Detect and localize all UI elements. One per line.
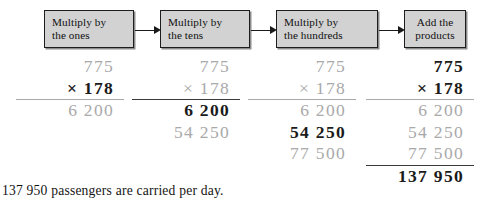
calc-row: 77 500 [248,143,356,165]
calc-value-dim: 775 [200,56,230,76]
flowchart-row: Multiply bythe ones Multiply bythe tens … [0,0,477,56]
calc-row: 77 500 [366,143,474,165]
flow-box-multiply-by-ones-line2: the ones [52,29,127,42]
calc-value-dim: 775 [316,56,346,76]
calc-value-active: 137 950 [398,166,464,186]
arrow-head [398,26,405,34]
arrow-right-icon-3 [379,26,405,35]
calc-row: 6 200 [132,99,240,122]
computation-step-2: 775× 1786 20054 250 [132,56,240,143]
calc-value-dim: 775 [84,56,114,76]
calc-row: 6 200 [248,99,356,122]
arrow-shaft [379,30,399,31]
calc-value-active: × 178 [417,78,464,98]
computation-step-3: 775× 1786 20054 25077 500 [248,56,356,165]
calc-value-dim: 6 200 [300,100,346,120]
flow-box-add-the-products-line1: Add the [410,16,460,29]
calc-row: 6 200 [366,99,474,122]
calc-value-dim: 54 250 [174,122,230,142]
arrow-head [270,26,277,34]
caption-text: 137 950 passengers are carried per day. [2,183,224,199]
calc-value-dim: × 178 [299,78,346,98]
calc-row: 137 950 [366,165,474,188]
computation-step-4: 775× 1786 20054 25077 500137 950 [366,56,474,187]
calc-value-dim: 6 200 [68,100,114,120]
arrow-shaft [135,30,155,31]
arrow-right-icon-2 [251,26,277,35]
calc-row: × 178 [248,78,356,100]
flow-box-multiply-by-ones: Multiply bythe ones [44,10,134,48]
calc-row: 6 200 [16,99,124,122]
calc-row: × 178 [366,78,474,100]
calc-row: 775 [16,56,124,78]
flow-box-multiply-by-tens-line1: Multiply by [168,16,243,29]
flow-box-multiply-by-tens-line2: the tens [168,29,243,42]
flow-box-multiply-by-ones-line1: Multiply by [52,16,127,29]
calc-row: × 178 [132,78,240,100]
calc-value-active: 775 [434,56,464,76]
calc-value-active: 54 250 [290,122,346,142]
calc-value-dim: 77 500 [290,143,346,163]
flow-box-add-the-products: Add theproducts [404,10,466,48]
calc-value-dim: 77 500 [408,143,464,163]
computation-step-1: 775× 1786 200 [16,56,124,122]
flow-box-multiply-by-hundreds-line1: Multiply by [284,16,371,29]
computation-columns: 775× 1786 200 775× 1786 20054 250 775× 1… [0,56,477,180]
calc-row: 54 250 [248,122,356,144]
flow-box-add-the-products-line2: products [410,29,460,42]
calc-row: 54 250 [366,122,474,144]
arrow-shaft [251,30,271,31]
calc-value-active: 6 200 [184,100,230,120]
calc-value-dim: × 178 [183,78,230,98]
calc-value-dim: 6 200 [418,100,464,120]
flow-box-multiply-by-tens: Multiply bythe tens [160,10,250,48]
calc-row: × 178 [16,78,124,100]
figure-root: Multiply bythe ones Multiply bythe tens … [0,0,477,208]
flow-box-multiply-by-hundreds: Multiply bythe hundreds [276,10,378,48]
calc-value-dim: 54 250 [408,122,464,142]
arrow-head [154,26,161,34]
calc-row: 54 250 [132,122,240,144]
flow-box-multiply-by-hundreds-line2: the hundreds [284,29,371,42]
calc-row: 775 [366,56,474,78]
calc-row: 775 [248,56,356,78]
arrow-right-icon-1 [135,26,161,35]
calc-row: 775 [132,56,240,78]
calc-value-active: × 178 [67,78,114,98]
